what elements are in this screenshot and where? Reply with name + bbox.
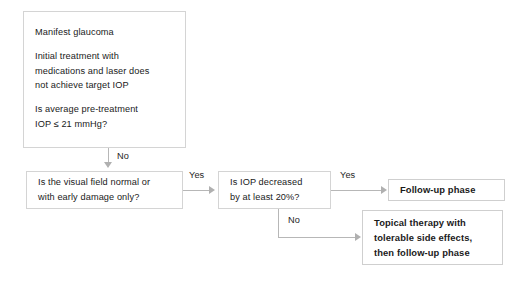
node-iop-decreased-line-1: Is IOP decreased xyxy=(230,175,322,190)
node-iop-decreased-line-2: by at least 20%? xyxy=(230,190,322,205)
arrow-right-iop-to-followup xyxy=(381,186,387,194)
connector-iop-to-topical-vertical xyxy=(278,209,279,237)
node-topical-line-2: tolerable side effects, xyxy=(374,230,496,245)
node-topical-therapy[interactable]: Topical therapy with tolerable side effe… xyxy=(362,210,503,265)
node-manifest-line-4: not achieve target IOP xyxy=(35,78,185,93)
node-visual-field-line-1: Is the visual field normal or xyxy=(38,175,174,190)
node-visual-field-question[interactable]: Is the visual field normal or with early… xyxy=(26,171,183,209)
edge-label-iop-yes: Yes xyxy=(340,170,355,180)
node-follow-up-phase[interactable]: Follow-up phase xyxy=(388,179,505,201)
connector-iop-to-topical-horizontal xyxy=(278,237,357,238)
node-manifest-line-1: Manifest glaucoma xyxy=(35,25,185,40)
node-topical-line-1: Topical therapy with xyxy=(374,215,496,230)
node-iop-decreased-question[interactable]: Is IOP decreased by at least 20%? xyxy=(218,171,331,209)
node-manifest-spacer-1 xyxy=(35,40,185,49)
edge-label-visual-field-yes: Yes xyxy=(189,170,204,180)
edge-label-iop-no: No xyxy=(288,215,300,225)
node-manifest-line-3: medications and laser does xyxy=(35,64,185,79)
node-visual-field-line-2: with early damage only? xyxy=(38,190,174,205)
node-follow-up-phase-label: Follow-up phase xyxy=(400,182,496,197)
node-manifest-line-5: Is average pre-treatment xyxy=(35,102,185,117)
connector-visual-field-to-iop xyxy=(183,190,211,191)
edge-label-manifest-no: No xyxy=(117,151,129,161)
arrow-right-iop-to-topical xyxy=(355,233,361,241)
arrow-right-visual-field-to-iop xyxy=(209,186,215,194)
node-manifest-spacer-2 xyxy=(35,93,185,102)
connector-iop-to-followup xyxy=(331,190,383,191)
node-manifest-glaucoma[interactable]: Manifest glaucoma Initial treatment with… xyxy=(23,11,186,148)
arrow-down-manifest-to-visual-field xyxy=(104,162,112,168)
node-manifest-line-6: IOP ≤ 21 mmHg? xyxy=(35,117,185,132)
node-topical-line-3: then follow-up phase xyxy=(374,245,496,260)
flowchart-canvas: Manifest glaucoma Initial treatment with… xyxy=(0,0,515,281)
node-manifest-line-2: Initial treatment with xyxy=(35,49,185,64)
